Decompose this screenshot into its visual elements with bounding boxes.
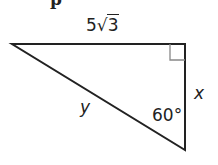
right-triangle-figure: p 5√3 x y 60°: [0, 0, 218, 165]
right-side-label-x: x: [194, 85, 204, 102]
radicand: 3: [107, 14, 119, 35]
cut-off-heading-text: p: [50, 0, 62, 8]
hypotenuse-label-y: y: [80, 99, 90, 116]
top-side-label: 5√3: [86, 17, 119, 34]
radical: √3: [97, 17, 119, 34]
triangle-outline: [12, 44, 185, 150]
angle-label-60: 60°: [152, 107, 182, 124]
top-side-coefficient: 5: [86, 15, 97, 35]
right-angle-marker: [170, 44, 185, 60]
